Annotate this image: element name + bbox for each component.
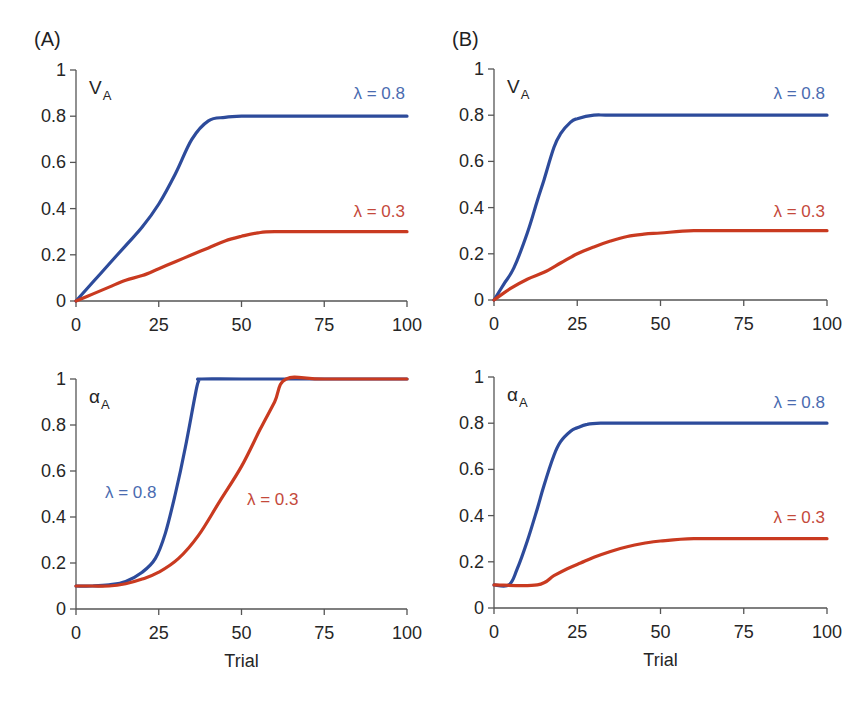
figure: (A) (B) 00.20.40.60.810255075100VAλ = 0.…	[0, 0, 867, 701]
series-label-lambda-0-3: λ = 0.3	[773, 508, 825, 527]
series-label-lambda-0-8: λ = 0.8	[105, 483, 157, 502]
x-tick-label: 25	[149, 623, 169, 643]
plot-B-bottom: 00.20.40.60.810255075100TrialαAλ = 0.8λ …	[459, 367, 842, 670]
curve-lambda-0-3	[494, 539, 827, 586]
y-tick-label: 0.6	[459, 459, 484, 479]
v-a-label: VA	[89, 77, 112, 103]
curve-lambda-0-3	[76, 232, 407, 301]
y-tick-label: 0.4	[41, 199, 66, 219]
plot-B-top: 00.20.40.60.810255075100VAλ = 0.8λ = 0.3	[459, 59, 842, 334]
series-label-lambda-0-3: λ = 0.3	[353, 202, 405, 221]
x-tick-label: 50	[231, 623, 251, 643]
y-tick-label: 0.8	[459, 413, 484, 433]
y-tick-label: 1	[56, 60, 66, 80]
x-tick-label: 75	[314, 623, 334, 643]
y-tick-label: 0.4	[41, 507, 66, 527]
curve-lambda-0-3	[494, 231, 827, 300]
y-tick-label: 0.8	[41, 415, 66, 435]
y-tick-label: 0.2	[41, 245, 66, 265]
y-tick-label: 0	[56, 599, 66, 619]
x-tick-label: 100	[392, 315, 422, 335]
series-label-lambda-0-3: λ = 0.3	[773, 202, 825, 221]
x-tick-label: 100	[812, 622, 842, 642]
x-tick-label: 25	[567, 622, 587, 642]
series-label-lambda-0-8: λ = 0.8	[353, 84, 405, 103]
plot-A-bottom: 00.20.40.60.810255075100TrialαAλ = 0.8λ …	[41, 369, 422, 671]
x-tick-label: 50	[231, 315, 251, 335]
curve-lambda-0-8	[494, 423, 827, 586]
v-a-label: VA	[507, 76, 530, 102]
plot-A-top: 00.20.40.60.810255075100VAλ = 0.8λ = 0.3	[41, 60, 422, 335]
panel-label-a: (A)	[34, 28, 61, 50]
y-tick-label: 0.2	[41, 553, 66, 573]
y-tick-label: 0.6	[41, 461, 66, 481]
x-tick-label: 100	[812, 314, 842, 334]
y-tick-label: 1	[474, 367, 484, 387]
series-label-lambda-0-8: λ = 0.8	[773, 393, 825, 412]
x-axis-title: Trial	[643, 650, 677, 670]
y-tick-label: 0.4	[459, 198, 484, 218]
x-tick-label: 75	[314, 315, 334, 335]
y-tick-label: 0.8	[459, 105, 484, 125]
y-tick-label: 1	[474, 59, 484, 79]
x-tick-label: 50	[650, 622, 670, 642]
y-tick-label: 0	[474, 598, 484, 618]
y-tick-label: 0.6	[41, 152, 66, 172]
y-tick-label: 0	[474, 290, 484, 310]
x-tick-label: 0	[71, 315, 81, 335]
panel-label-b: (B)	[452, 28, 479, 50]
series-label-lambda-0-8: λ = 0.8	[773, 84, 825, 103]
y-tick-label: 0.4	[459, 506, 484, 526]
y-tick-label: 0.2	[459, 552, 484, 572]
x-tick-label: 0	[489, 314, 499, 334]
x-tick-label: 100	[392, 623, 422, 643]
alpha-a-label: αA	[89, 386, 110, 412]
curve-lambda-0-3	[76, 377, 407, 586]
x-tick-label: 0	[489, 622, 499, 642]
x-tick-label: 75	[734, 314, 754, 334]
x-tick-label: 75	[734, 622, 754, 642]
y-tick-label: 1	[56, 369, 66, 389]
y-tick-label: 0.2	[459, 244, 484, 264]
y-tick-label: 0.6	[459, 151, 484, 171]
y-tick-label: 0	[56, 291, 66, 311]
y-tick-label: 0.8	[41, 106, 66, 126]
alpha-a-label: αA	[507, 384, 528, 410]
x-tick-label: 50	[650, 314, 670, 334]
series-label-lambda-0-3: λ = 0.3	[247, 490, 299, 509]
x-tick-label: 25	[567, 314, 587, 334]
x-tick-label: 25	[149, 315, 169, 335]
x-axis-title: Trial	[224, 651, 258, 671]
x-tick-label: 0	[71, 623, 81, 643]
